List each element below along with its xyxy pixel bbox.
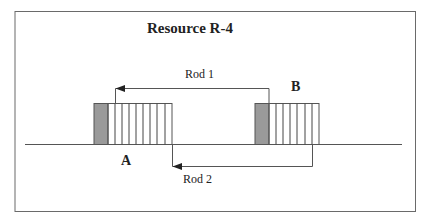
rod-1-label: Rod 1 xyxy=(185,67,214,82)
rod-1-arrow xyxy=(116,85,270,104)
block-a-stripes xyxy=(115,104,165,145)
block-b xyxy=(255,104,319,145)
block-a-body xyxy=(108,104,172,145)
block-a-shaded-end xyxy=(94,104,108,145)
rod-2-arrow xyxy=(173,145,313,171)
rod-2-label: Rod 2 xyxy=(183,172,212,187)
block-b-stripes xyxy=(276,104,312,145)
block-a xyxy=(94,104,172,145)
point-a-label: A xyxy=(121,153,131,169)
frame-border xyxy=(15,12,416,212)
block-b-shaded-end xyxy=(255,104,269,145)
point-b-label: B xyxy=(291,79,300,95)
diagram-title: Resource R-4 xyxy=(147,20,233,37)
rod-2-arrowhead-icon xyxy=(173,163,183,170)
rod-1-arrowhead-icon xyxy=(116,85,126,92)
